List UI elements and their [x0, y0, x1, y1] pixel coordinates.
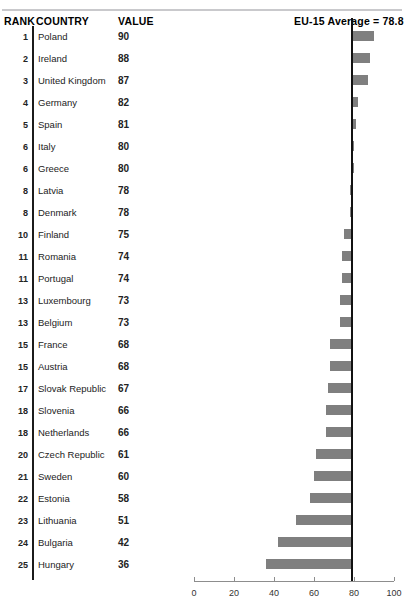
cell-rank: 18: [0, 400, 28, 422]
cell-value: 80: [118, 158, 129, 180]
table-row: 17Slovak Republic67: [0, 378, 404, 400]
table-body: 1Poland902Ireland883United Kingdom874Ger…: [0, 0, 404, 610]
cell-value: 74: [118, 268, 129, 290]
cell-rank: 4: [0, 92, 28, 114]
table-row: 15France68: [0, 334, 404, 356]
cell-country: Germany: [38, 92, 77, 114]
table-row: 13Luxembourg73: [0, 290, 404, 312]
cell-value: 82: [118, 92, 129, 114]
cell-country: Italy: [38, 136, 55, 158]
table-row: 11Romania74: [0, 246, 404, 268]
table-row: 10Finland75: [0, 224, 404, 246]
cell-value: 80: [118, 136, 129, 158]
cell-value: 60: [118, 466, 129, 488]
cell-country: Netherlands: [38, 422, 89, 444]
table-row: 20Czech Republic61: [0, 444, 404, 466]
table-row: 8Latvia78: [0, 180, 404, 202]
cell-country: France: [38, 334, 68, 356]
cell-value: 90: [118, 26, 129, 48]
cell-country: Czech Republic: [38, 444, 105, 466]
cell-rank: 2: [0, 48, 28, 70]
cell-value: 81: [118, 114, 129, 136]
cell-country: Denmark: [38, 202, 77, 224]
table-row: 22Estonia58: [0, 488, 404, 510]
cell-value: 87: [118, 70, 129, 92]
cell-country: Romania: [38, 246, 76, 268]
cell-value: 42: [118, 532, 129, 554]
table-row: 5Spain81: [0, 114, 404, 136]
cell-rank: 17: [0, 378, 28, 400]
cell-rank: 15: [0, 356, 28, 378]
cell-value: 68: [118, 334, 129, 356]
cell-country: Bulgaria: [38, 532, 73, 554]
table-row: 13Belgium73: [0, 312, 404, 334]
cell-rank: 22: [0, 488, 28, 510]
cell-rank: 18: [0, 422, 28, 444]
table-row: 18Slovenia66: [0, 400, 404, 422]
cell-value: 67: [118, 378, 129, 400]
cell-value: 66: [118, 422, 129, 444]
cell-country: Latvia: [38, 180, 63, 202]
table-row: 23Lithuania51: [0, 510, 404, 532]
cell-value: 61: [118, 444, 129, 466]
cell-value: 75: [118, 224, 129, 246]
cell-value: 51: [118, 510, 129, 532]
cell-rank: 8: [0, 180, 28, 202]
cell-rank: 6: [0, 158, 28, 180]
cell-rank: 23: [0, 510, 28, 532]
cell-country: Austria: [38, 356, 68, 378]
cell-country: Slovenia: [38, 400, 74, 422]
cell-country: Estonia: [38, 488, 70, 510]
cell-rank: 8: [0, 202, 28, 224]
table-row: 15Austria68: [0, 356, 404, 378]
table-row: 3United Kingdom87: [0, 70, 404, 92]
table-row: 21Sweden60: [0, 466, 404, 488]
cell-value: 74: [118, 246, 129, 268]
table-row: 6Italy80: [0, 136, 404, 158]
cell-value: 58: [118, 488, 129, 510]
table-row: 6Greece80: [0, 158, 404, 180]
cell-value: 78: [118, 180, 129, 202]
cell-country: Belgium: [38, 312, 72, 334]
table-row: 24Bulgaria42: [0, 532, 404, 554]
table-row: 2Ireland88: [0, 48, 404, 70]
cell-country: Greece: [38, 158, 69, 180]
cell-country: Hungary: [38, 554, 74, 576]
cell-rank: 11: [0, 268, 28, 290]
cell-rank: 5: [0, 114, 28, 136]
table-row: 18Netherlands66: [0, 422, 404, 444]
cell-value: 68: [118, 356, 129, 378]
cell-rank: 3: [0, 70, 28, 92]
cell-value: 73: [118, 290, 129, 312]
table-row: 25Hungary36: [0, 554, 404, 576]
table-row: 4Germany82: [0, 92, 404, 114]
cell-rank: 21: [0, 466, 28, 488]
cell-country: United Kingdom: [38, 70, 106, 92]
table-row: 1Poland90: [0, 26, 404, 48]
cell-country: Sweden: [38, 466, 72, 488]
cell-country: Poland: [38, 26, 68, 48]
cell-country: Slovak Republic: [38, 378, 106, 400]
cell-rank: 24: [0, 532, 28, 554]
cell-rank: 10: [0, 224, 28, 246]
cell-country: Ireland: [38, 48, 67, 70]
cell-country: Portugal: [38, 268, 73, 290]
cell-value: 78: [118, 202, 129, 224]
cell-value: 36: [118, 554, 129, 576]
cell-rank: 11: [0, 246, 28, 268]
cell-rank: 13: [0, 312, 28, 334]
cell-rank: 13: [0, 290, 28, 312]
cell-value: 73: [118, 312, 129, 334]
cell-country: Luxembourg: [38, 290, 91, 312]
table-row: 8Denmark78: [0, 202, 404, 224]
cell-country: Lithuania: [38, 510, 77, 532]
cell-value: 66: [118, 400, 129, 422]
cell-rank: 25: [0, 554, 28, 576]
cell-rank: 6: [0, 136, 28, 158]
cell-value: 88: [118, 48, 129, 70]
cell-country: Finland: [38, 224, 69, 246]
cell-rank: 1: [0, 26, 28, 48]
cell-rank: 15: [0, 334, 28, 356]
cell-rank: 20: [0, 444, 28, 466]
table-row: 11Portugal74: [0, 268, 404, 290]
